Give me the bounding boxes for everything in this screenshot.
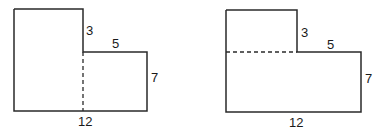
diagram-canvas: 3 5 7 12 3 5 7 12	[0, 0, 381, 136]
right-label-7: 7	[365, 71, 372, 86]
left-label-12: 12	[78, 114, 92, 129]
right-label-12: 12	[289, 115, 303, 130]
left-figure-outline	[14, 9, 147, 111]
right-figure: 3 5 7 12	[226, 10, 372, 130]
left-label-7: 7	[151, 70, 158, 85]
right-label-3: 3	[301, 25, 308, 40]
left-figure: 3 5 7 12	[14, 9, 158, 129]
left-label-5: 5	[112, 36, 119, 51]
left-label-3: 3	[86, 23, 93, 38]
right-label-5: 5	[327, 37, 334, 52]
right-figure-outline	[226, 10, 361, 112]
